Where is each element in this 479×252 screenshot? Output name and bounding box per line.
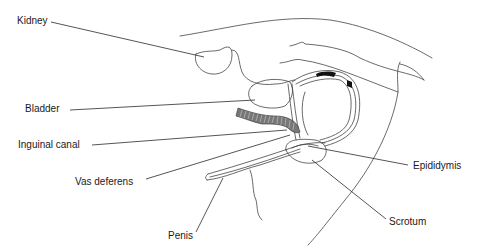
anatomy-diagram: Kidney Bladder Inguinal canal Vas defere… (0, 0, 479, 252)
body-outline-top (180, 19, 432, 58)
ureter (232, 50, 295, 85)
leader-kidney (51, 22, 204, 57)
label-bladder: Bladder (25, 104, 59, 114)
leader-penis (196, 178, 223, 232)
leader-epididymis (308, 146, 408, 165)
testis-loop-inner (300, 79, 351, 140)
black-mark-1 (316, 72, 336, 77)
testis-loop-mid (296, 75, 356, 143)
label-inguinal-canal: Inguinal canal (18, 140, 80, 150)
leader-scrotum (312, 160, 386, 219)
inner-curve (302, 92, 308, 135)
leg-outline-right (400, 64, 424, 80)
label-kidney: Kidney (17, 16, 48, 26)
leader-bladder (70, 100, 255, 110)
penis-tip (206, 174, 208, 180)
label-penis: Penis (168, 231, 193, 241)
diagram-drawing (0, 0, 479, 252)
leg-outline (308, 62, 400, 245)
leader-vas (146, 135, 290, 179)
leader-inguinal (92, 130, 287, 145)
label-vas-deferens: Vas deferens (75, 177, 133, 187)
penis-inner (210, 149, 300, 177)
black-mark-2 (347, 80, 352, 88)
label-epididymis: Epididymis (413, 161, 461, 171)
penis-upper (208, 143, 325, 174)
label-scrotum: Scrotum (389, 217, 426, 227)
belly-line (250, 170, 262, 220)
bladder-shape (249, 79, 293, 108)
kidney-shape (195, 47, 232, 74)
